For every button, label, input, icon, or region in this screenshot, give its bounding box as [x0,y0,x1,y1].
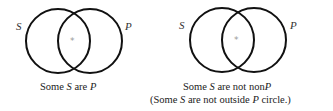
caption-left-var-p: P [90,81,96,92]
caption-right-line2: (Some S are not outside P circle.) [150,95,291,106]
label-s-right: S [179,20,185,31]
label-s-left: S [16,21,22,32]
caption-left: Some S are P [40,82,96,93]
label-p-right: P [290,20,297,31]
asterisk-mark-right: * [234,36,239,45]
caption-left-pre: Some [40,81,67,92]
caption-right2-pre: (Some [150,94,180,105]
caption-right1-mid: are not non [215,81,265,92]
caption-right1-var-p: P [265,81,271,92]
caption-right2-post: circle.) [259,94,291,105]
caption-left-mid: are [72,81,90,92]
asterisk-mark-left: * [70,37,75,46]
caption-right-line1: Some S are not nonP [183,82,271,93]
caption-right1-pre: Some [183,81,210,92]
label-p-left: P [125,21,132,32]
caption-right2-mid: are not outside [185,94,252,105]
